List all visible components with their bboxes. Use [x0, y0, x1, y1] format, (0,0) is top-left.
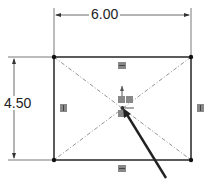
sketch-canvas[interactable]: 6.00 4.50 — [0, 0, 209, 182]
height-dimension[interactable]: 4.50 — [2, 96, 33, 110]
width-dimension[interactable]: 6.00 — [89, 7, 120, 21]
sketch-drawing — [0, 0, 209, 182]
